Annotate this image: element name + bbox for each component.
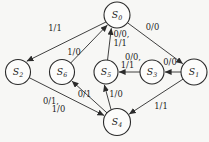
transition-label: 0/1 [78, 89, 91, 99]
state-node-s1: S1 [181, 59, 207, 85]
state-node-s4: S4 [104, 109, 131, 136]
transition-s4-s5: 1/0 [104, 85, 122, 110]
state-node-s0: S0 [104, 2, 130, 28]
transition-label: 1/1 [154, 101, 167, 111]
state-node-s6: S6 [50, 60, 75, 85]
transition-label: 1/1 [121, 60, 134, 70]
state-node-s3: S3 [140, 60, 164, 84]
state-node-s2: S2 [6, 60, 31, 85]
state-node-s5: S5 [94, 60, 118, 84]
state-diagram-canvas: 1/11/00/0,1/10/00/0,1/10/00/1,1/00/11/01… [0, 0, 209, 142]
transition-label: 1/1 [114, 38, 127, 48]
transition-label: 1/0 [52, 104, 65, 114]
transition-arrow [108, 28, 112, 60]
transition-label: 1/0 [67, 47, 80, 57]
transition-label: 1/1 [48, 23, 61, 33]
state-diagram-figure: 1/11/00/0,1/10/00/0,1/10/00/1,1/00/11/01… [0, 0, 209, 142]
transition-label: 1/0 [109, 89, 122, 99]
states-layer: S0S1S2S3S4S5S6 [6, 2, 208, 136]
transition-label: 0/0 [146, 22, 159, 32]
transition-label: 0/0 [163, 57, 176, 67]
